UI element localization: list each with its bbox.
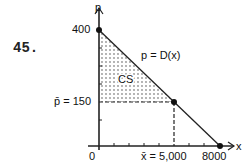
curve-label: p = D(x) — [141, 49, 180, 61]
problem-number: 45. — [13, 40, 38, 56]
y-intercept-point — [96, 27, 102, 33]
y-axis-label: p — [95, 1, 101, 13]
equilibrium-point — [171, 99, 177, 105]
y-intercept-label: 400 — [72, 23, 90, 35]
equilibrium-quantity-label: x̄ = 5,000 — [141, 150, 187, 162]
equilibrium-price-label: p̄ = 150 — [54, 95, 91, 107]
x-intercept-point — [217, 143, 223, 149]
origin-label: 0 — [89, 150, 95, 162]
consumer-surplus-diagram: 45. p x 0 400 p̄ = 150 x̄ = 5,000 8000 p… — [0, 0, 250, 167]
x-intercept-label: 8000 — [202, 150, 226, 162]
x-axis-label: x — [236, 140, 242, 152]
region-label: CS — [118, 73, 133, 85]
